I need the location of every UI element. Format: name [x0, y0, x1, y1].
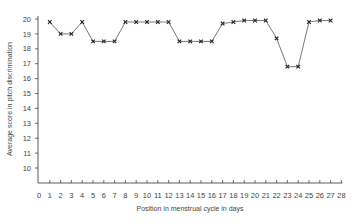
x-tick-label: 28 — [337, 191, 345, 200]
x-tick-label: 12 — [164, 191, 172, 200]
x-tick-label: 1 — [48, 191, 52, 200]
x-tick-label: 5 — [91, 191, 95, 200]
x-tick-label: 13 — [175, 191, 183, 200]
line-chart: 1011121314151617181920 01234567891011121… — [0, 0, 356, 224]
x-tick-label: 18 — [229, 191, 237, 200]
x-tick-label: 9 — [134, 191, 138, 200]
x-tick-label: 15 — [197, 191, 205, 200]
x-marker-icon — [275, 37, 279, 41]
x-tick-label: 3 — [69, 191, 73, 200]
x-tick-label: 8 — [123, 191, 127, 200]
x-marker-icon — [48, 20, 52, 24]
y-axis: 1011121314151617181920 — [23, 15, 38, 183]
y-tick-label: 10 — [23, 164, 31, 173]
x-tick-label: 24 — [294, 191, 302, 200]
y-tick-label: 16 — [23, 74, 31, 83]
x-tick-label: 17 — [218, 191, 226, 200]
y-axis-title: Average score in pitch discrimination — [6, 42, 14, 156]
x-tick-label: 14 — [186, 191, 194, 200]
y-tick-label: 17 — [23, 59, 31, 68]
x-tick-label: 27 — [326, 191, 334, 200]
x-tick-label: 4 — [80, 191, 84, 200]
x-tick-label: 11 — [154, 191, 162, 200]
y-tick-label: 15 — [23, 89, 31, 98]
x-axis: 0123456789101112131415161718192021222324… — [37, 180, 346, 200]
x-tick-label: 25 — [305, 191, 313, 200]
x-tick-label: 0 — [37, 191, 41, 200]
x-tick-label: 21 — [262, 191, 270, 200]
y-tick-label: 19 — [23, 30, 31, 39]
x-tick-label: 7 — [113, 191, 117, 200]
y-tick-label: 14 — [23, 104, 31, 113]
x-tick-label: 10 — [143, 191, 151, 200]
x-tick-label: 23 — [283, 191, 291, 200]
data-line — [50, 21, 331, 67]
x-tick-label: 2 — [59, 191, 63, 200]
x-tick-label: 16 — [208, 191, 216, 200]
x-tick-label: 22 — [272, 191, 280, 200]
x-tick-label: 6 — [102, 191, 106, 200]
plot-area — [48, 19, 332, 69]
x-tick-label: 19 — [240, 191, 248, 200]
y-tick-label: 12 — [23, 134, 31, 143]
x-tick-label: 20 — [251, 191, 259, 200]
y-tick-label: 11 — [23, 149, 31, 158]
x-axis-title: Position in menstrual cycle in days — [137, 205, 244, 213]
y-tick-label: 18 — [23, 44, 31, 53]
y-tick-label: 20 — [23, 15, 31, 24]
x-marker-icon — [80, 20, 84, 24]
y-tick-label: 13 — [23, 119, 31, 128]
x-tick-label: 26 — [316, 191, 324, 200]
